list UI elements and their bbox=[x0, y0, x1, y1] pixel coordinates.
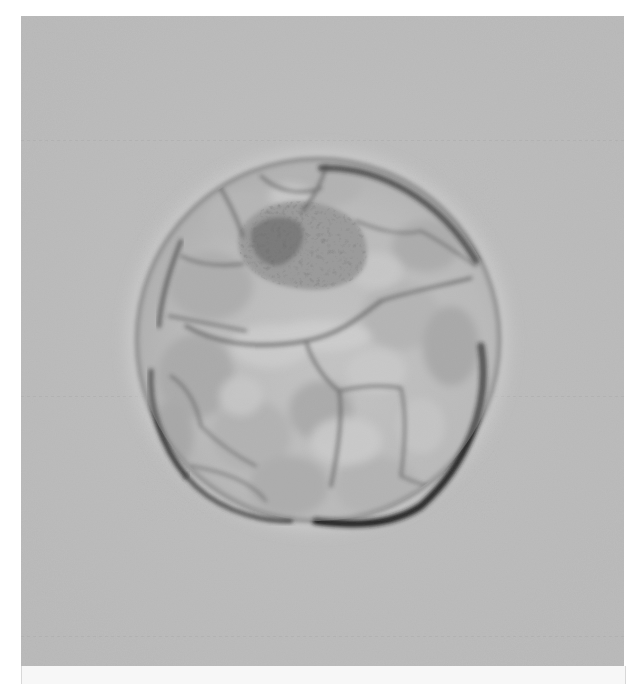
image-bottom-margin bbox=[21, 666, 626, 684]
embryo-illustration bbox=[21, 16, 624, 666]
embryo-cell bbox=[137, 159, 499, 524]
microscopy-image bbox=[21, 16, 624, 666]
